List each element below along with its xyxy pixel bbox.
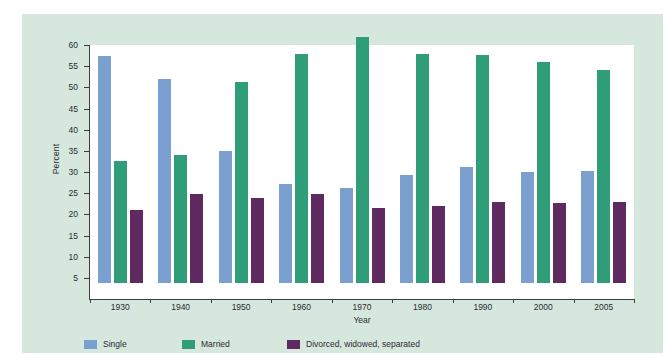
- x-tick-label-1980: 1980: [395, 302, 449, 312]
- x-tick-mark: [211, 299, 212, 303]
- bar-divorced-1970: [372, 208, 385, 283]
- y-tick-label: 35: [52, 147, 78, 155]
- x-axis-line: [89, 299, 635, 300]
- y-tick-mark: [84, 130, 89, 131]
- y-tick-label: 15: [52, 232, 78, 240]
- bar-divorced-1980: [432, 206, 445, 283]
- bar-married-2000: [537, 62, 550, 283]
- bar-married-1970: [356, 37, 369, 283]
- y-tick-label: 40: [52, 126, 78, 134]
- legend-swatch-icon: [182, 340, 195, 349]
- y-tick-mark: [84, 66, 89, 67]
- legend-label: Single: [103, 339, 127, 349]
- bar-divorced-2005: [613, 202, 626, 283]
- bar-married-1950: [235, 82, 248, 283]
- y-tick-mark: [84, 214, 89, 215]
- y-tick-label: 20: [52, 210, 78, 218]
- bar-married-1930: [114, 161, 127, 283]
- bar-divorced-1930: [130, 210, 143, 283]
- bar-divorced-1990: [492, 202, 505, 283]
- x-tick-label-1960: 1960: [275, 302, 329, 312]
- bar-married-1960: [295, 54, 308, 283]
- bar-divorced-2000: [553, 203, 566, 283]
- x-tick-label-1970: 1970: [335, 302, 389, 312]
- y-tick-mark: [84, 236, 89, 237]
- bar-single-1950: [219, 151, 232, 283]
- x-tick-mark: [392, 299, 393, 303]
- bar-single-1960: [279, 184, 292, 283]
- x-tick-mark: [513, 299, 514, 303]
- bar-married-2005: [597, 70, 610, 283]
- y-tick-label: 10: [52, 253, 78, 261]
- legend-item-divorced: Divorced, widowed, separated: [287, 339, 420, 349]
- legend-item-married: Married: [182, 339, 230, 349]
- legend-swatch-icon: [287, 340, 300, 349]
- x-tick-mark: [271, 299, 272, 303]
- x-tick-mark: [150, 299, 151, 303]
- bar-single-2005: [581, 171, 594, 283]
- bar-divorced-1940: [190, 194, 203, 283]
- x-tick-label-1930: 1930: [93, 302, 147, 312]
- bar-married-1980: [416, 54, 429, 283]
- y-tick-label: 45: [52, 105, 78, 113]
- bar-single-2000: [521, 172, 534, 283]
- y-tick-mark: [84, 172, 89, 173]
- legend-label: Divorced, widowed, separated: [306, 339, 420, 349]
- y-tick-mark: [84, 193, 89, 194]
- x-tick-mark: [634, 299, 635, 303]
- legend-item-single: Single: [84, 339, 127, 349]
- bar-single-1940: [158, 79, 171, 283]
- y-tick-label: 50: [52, 83, 78, 91]
- y-tick-label: 60: [52, 41, 78, 49]
- x-tick-label-2000: 2000: [516, 302, 570, 312]
- x-tick-mark: [332, 299, 333, 303]
- y-tick-mark: [84, 257, 89, 258]
- x-tick-label-1990: 1990: [456, 302, 510, 312]
- bar-married-1940: [174, 155, 187, 283]
- y-axis-line: [89, 45, 90, 300]
- chart-page: Percent 51015202530354045505560 19301940…: [0, 0, 665, 355]
- x-axis-title: Year: [90, 315, 634, 325]
- y-tick-mark: [84, 109, 89, 110]
- x-tick-mark: [90, 299, 91, 303]
- y-tick-mark: [84, 45, 89, 46]
- x-tick-mark: [453, 299, 454, 303]
- bar-divorced-1950: [251, 198, 264, 283]
- bar-married-1990: [476, 55, 489, 283]
- bar-single-1990: [460, 167, 473, 283]
- y-tick-label: 25: [52, 189, 78, 197]
- legend-label: Married: [201, 339, 230, 349]
- x-tick-label-1940: 1940: [154, 302, 208, 312]
- figure-panel: Percent 51015202530354045505560 19301940…: [22, 14, 663, 353]
- legend-swatch-icon: [84, 340, 97, 349]
- y-tick-label: 30: [52, 168, 78, 176]
- y-tick-mark: [84, 87, 89, 88]
- bar-single-1970: [340, 188, 353, 283]
- x-tick-mark: [574, 299, 575, 303]
- bar-single-1980: [400, 175, 413, 283]
- bar-single-1930: [98, 56, 111, 283]
- x-tick-label-1950: 1950: [214, 302, 268, 312]
- y-tick-mark: [84, 278, 89, 279]
- bar-divorced-1960: [311, 194, 324, 283]
- y-tick-label: 5: [52, 274, 78, 282]
- y-tick-label: 55: [52, 62, 78, 70]
- x-tick-label-2005: 2005: [577, 302, 631, 312]
- y-tick-mark: [84, 151, 89, 152]
